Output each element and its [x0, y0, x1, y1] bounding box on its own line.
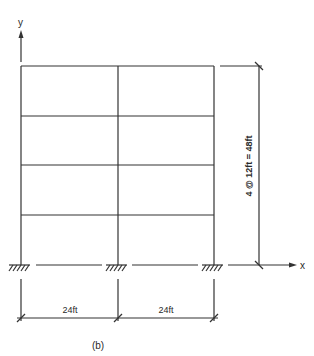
fixed-support-left-icon	[9, 265, 30, 271]
fixed-support-middle-icon	[106, 265, 127, 271]
frame-diagram: y x 24ft 24ft 4 @ 12ft = 48ft (b)	[0, 0, 314, 356]
x-axis-label: x	[300, 260, 305, 271]
y-axis-arrow-icon	[19, 30, 24, 38]
bay-width-label-2: 24ft	[158, 305, 174, 315]
figure-caption: (b)	[92, 340, 104, 351]
height-dimension-label: 4 @ 12ft = 48ft	[244, 135, 254, 196]
fixed-support-right-icon	[202, 265, 223, 271]
bay-width-label-1: 24ft	[62, 305, 78, 315]
y-axis-label: y	[18, 17, 23, 28]
x-axis-arrow-icon	[289, 263, 297, 268]
